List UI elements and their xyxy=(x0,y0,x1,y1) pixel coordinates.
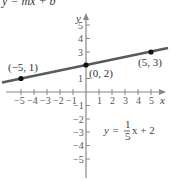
svg-text:−1: −1 xyxy=(73,100,84,111)
eq-lhs: y = xyxy=(103,124,119,136)
svg-text:1: 1 xyxy=(78,73,83,84)
point-label-neg5-1: (−5, 1) xyxy=(8,61,38,74)
svg-text:3: 3 xyxy=(78,47,83,58)
svg-text:−4: −4 xyxy=(27,95,38,106)
svg-text:−2: −2 xyxy=(73,114,84,125)
y-axis-arrow-icon xyxy=(83,13,89,20)
eq-denominator: 5 xyxy=(125,130,131,142)
point-label-0-2: (0, 2) xyxy=(89,67,113,80)
svg-text:4: 4 xyxy=(136,95,141,106)
svg-text:2: 2 xyxy=(110,95,115,106)
svg-text:5: 5 xyxy=(149,95,154,106)
point-neg5-1 xyxy=(18,76,23,81)
svg-text:−3: −3 xyxy=(73,127,84,138)
svg-text:−5: −5 xyxy=(73,154,84,165)
svg-text:−2: −2 xyxy=(53,95,64,106)
svg-text:−4: −4 xyxy=(73,140,84,151)
x-axis-label: x xyxy=(159,94,165,106)
line-graph: y = mx + b x y −5 −4 −3 −2 −1 1 2 3 4 5 xyxy=(0,0,179,181)
equation-annotation: y = 1 5 x + 2 xyxy=(103,118,155,142)
svg-text:−3: −3 xyxy=(40,95,51,106)
point-0-2 xyxy=(83,62,88,67)
svg-text:−5: −5 xyxy=(14,95,25,106)
eq-rhs: x + 2 xyxy=(132,124,155,136)
svg-text:4: 4 xyxy=(78,33,83,44)
point-5-3 xyxy=(148,49,153,54)
svg-text:5: 5 xyxy=(78,20,83,31)
graph-title: y = mx + b xyxy=(1,0,56,8)
eq-numerator: 1 xyxy=(125,118,131,130)
point-label-5-3: (5, 3) xyxy=(138,56,162,69)
svg-text:1: 1 xyxy=(97,95,102,106)
svg-text:3: 3 xyxy=(123,95,128,106)
x-tick-labels: −5 −4 −3 −2 −1 1 2 3 4 5 xyxy=(14,95,154,106)
